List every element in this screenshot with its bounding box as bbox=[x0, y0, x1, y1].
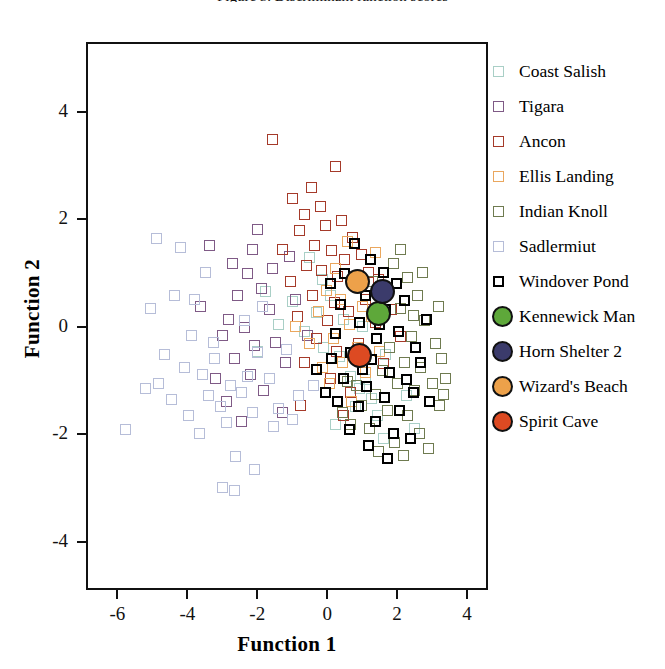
scatter-point bbox=[406, 331, 417, 342]
scatter-point bbox=[401, 374, 412, 385]
scatter-point bbox=[382, 453, 393, 464]
scatter-point bbox=[197, 369, 208, 380]
scatter-point bbox=[203, 390, 214, 401]
scatter-point bbox=[247, 407, 258, 418]
scatter-point bbox=[229, 353, 240, 364]
scatter-point bbox=[183, 410, 194, 421]
scatter-point bbox=[371, 333, 382, 344]
scatter-highlight-marker bbox=[370, 279, 395, 304]
legend-item-label: Spirit Cave bbox=[519, 411, 598, 432]
scatter-point bbox=[438, 389, 449, 400]
scatter-point bbox=[405, 433, 416, 444]
x-axis-tick-label: -2 bbox=[237, 603, 277, 625]
legend-item-windover-pond[interactable]: Windover Pond bbox=[493, 264, 665, 299]
x-axis-tick-label: -6 bbox=[97, 603, 137, 625]
scatter-point bbox=[394, 405, 405, 416]
scatter-point bbox=[277, 244, 288, 255]
scatter-point bbox=[242, 268, 253, 279]
scatter-point bbox=[402, 272, 413, 283]
scatter-point bbox=[242, 371, 253, 382]
scatter-point bbox=[281, 344, 292, 355]
scatter-point bbox=[330, 161, 341, 172]
legend-item-label: Ellis Landing bbox=[519, 166, 614, 187]
scatter-point bbox=[249, 464, 260, 475]
y-axis-tick bbox=[77, 541, 86, 543]
scatter-point bbox=[316, 265, 327, 276]
x-axis-tick bbox=[256, 590, 258, 599]
scatter-point bbox=[273, 403, 284, 414]
scatter-point bbox=[307, 290, 318, 301]
x-axis-tick-label: 4 bbox=[447, 603, 487, 625]
scatter-point bbox=[290, 321, 301, 332]
legend-marker-icon bbox=[493, 136, 519, 147]
scatter-point bbox=[208, 337, 219, 348]
scatter-point bbox=[252, 347, 263, 358]
scatter-point bbox=[326, 245, 337, 256]
scatter-point bbox=[299, 357, 310, 368]
scatter-point bbox=[179, 362, 190, 373]
scatter-point bbox=[424, 396, 435, 407]
scatter-point bbox=[306, 182, 317, 193]
scatter-point bbox=[221, 417, 232, 428]
legend-marker-icon bbox=[493, 101, 519, 112]
scatter-point bbox=[252, 224, 263, 235]
scatter-point bbox=[256, 283, 267, 294]
scatter-point bbox=[430, 338, 441, 349]
scatter-highlight-marker bbox=[366, 301, 391, 326]
scatter-point bbox=[315, 201, 326, 212]
legend-item-sadlermiut[interactable]: Sadlermiut bbox=[493, 229, 665, 264]
legend-item-indian-knoll[interactable]: Indian Knoll bbox=[493, 194, 665, 229]
scatter-point bbox=[166, 394, 177, 405]
scatter-point bbox=[393, 326, 404, 337]
scatter-point bbox=[399, 357, 410, 368]
legend-item-wizard-s-beach[interactable]: Wizard's Beach bbox=[493, 369, 665, 404]
scatter-point bbox=[378, 433, 389, 444]
y-axis-tick-label: -2 bbox=[34, 422, 68, 444]
legend-marker-icon bbox=[493, 206, 519, 217]
scatter-point bbox=[417, 267, 428, 278]
scatter-point bbox=[353, 401, 364, 412]
scatter-point bbox=[326, 353, 337, 364]
x-axis-tick-label: -4 bbox=[167, 603, 207, 625]
scatter-point bbox=[408, 310, 419, 321]
scatter-point bbox=[322, 315, 333, 326]
scatter-point bbox=[273, 319, 284, 330]
legend-marker-icon bbox=[493, 306, 519, 327]
scatter-point bbox=[229, 485, 240, 496]
scatter-point bbox=[338, 373, 349, 384]
scatter-point bbox=[268, 421, 279, 432]
legend-item-tigara[interactable]: Tigara bbox=[493, 89, 665, 124]
legend-item-coast-salish[interactable]: Coast Salish bbox=[493, 54, 665, 89]
legend-swatch bbox=[493, 241, 504, 252]
scatter-point bbox=[395, 244, 406, 255]
scatter-point bbox=[236, 387, 247, 398]
scatter-point bbox=[308, 380, 319, 391]
discriminant-scatter-figure: Figure 5. Discriminant function scores -… bbox=[0, 0, 665, 669]
scatter-point bbox=[287, 193, 298, 204]
x-axis-tick-label: 0 bbox=[307, 603, 347, 625]
scatter-point bbox=[320, 220, 331, 231]
scatter-point bbox=[280, 357, 291, 368]
y-axis-tick bbox=[77, 433, 86, 435]
scatter-point bbox=[382, 405, 393, 416]
scatter-point bbox=[169, 290, 180, 301]
scatter-point bbox=[365, 254, 376, 265]
scatter-point bbox=[247, 244, 258, 255]
scatter-point bbox=[290, 294, 301, 305]
scatter-point bbox=[398, 450, 409, 461]
legend-item-spirit-cave[interactable]: Spirit Cave bbox=[493, 404, 665, 439]
scatter-point bbox=[412, 290, 423, 301]
scatter-point bbox=[287, 414, 298, 425]
scatter-point bbox=[427, 378, 438, 389]
legend-item-kennewick-man[interactable]: Kennewick Man bbox=[493, 299, 665, 334]
scatter-point bbox=[433, 301, 444, 312]
scatter-point bbox=[159, 349, 170, 360]
scatter-point bbox=[267, 134, 278, 145]
legend-swatch bbox=[493, 101, 504, 112]
legend-swatch bbox=[493, 206, 504, 217]
y-axis-tick-label: 4 bbox=[34, 100, 68, 122]
legend-item-ellis-landing[interactable]: Ellis Landing bbox=[493, 159, 665, 194]
legend-item-ancon[interactable]: Ancon bbox=[493, 124, 665, 159]
scatter-point bbox=[236, 416, 247, 427]
legend-item-horn-shelter-2[interactable]: Horn Shelter 2 bbox=[493, 334, 665, 369]
